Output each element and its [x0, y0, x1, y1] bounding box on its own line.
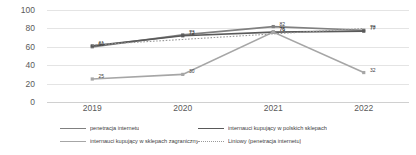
- x-axis-tick-label: 2019: [83, 104, 102, 113]
- data-point-label: 25: [98, 74, 104, 79]
- data-point-label: 72: [189, 30, 195, 35]
- data-point-marker: [272, 30, 275, 33]
- legend-item[interactable]: penetracja internetu: [60, 126, 198, 132]
- legend-item-label: penetracja internetu: [90, 126, 139, 132]
- x-axis: 2019202020212022: [47, 104, 409, 118]
- y-axis: 020406080100: [0, 10, 40, 102]
- legend-swatch-icon: [60, 141, 86, 142]
- data-point-marker: [362, 30, 365, 33]
- legend-item[interactable]: Liniowy (penetracja internetu): [198, 139, 360, 145]
- series-line: [92, 27, 364, 47]
- legend-swatch-icon: [198, 141, 224, 142]
- legend-item[interactable]: internauci kupujący w polskich sklepach: [198, 126, 360, 132]
- y-axis-tick-label: 40: [1, 61, 35, 70]
- series-line: [92, 31, 364, 46]
- legend-item-label: Liniowy (penetracja internetu): [228, 139, 301, 145]
- data-point-label: 30: [189, 69, 195, 74]
- line-chart: 020406080100 607382786172767725307632 20…: [0, 0, 416, 155]
- data-point-marker: [362, 71, 365, 74]
- y-axis-tick-label: 80: [1, 24, 35, 33]
- x-axis-tick-label: 2022: [354, 104, 373, 113]
- data-point-label: 76: [279, 27, 285, 32]
- data-point-marker: [181, 34, 184, 37]
- data-point-label: 32: [370, 67, 376, 72]
- y-axis-tick-label: 100: [1, 6, 35, 15]
- legend-item[interactable]: internauci kupujący w sklepach zagranicz…: [60, 139, 198, 145]
- x-axis-tick-label: 2020: [173, 104, 192, 113]
- plot-area: 607382786172767725307632: [47, 10, 409, 102]
- data-point-marker: [272, 25, 275, 28]
- data-point-marker: [181, 73, 184, 76]
- chart-legend: penetracja internetuinternauci kupujący …: [60, 122, 360, 148]
- legend-swatch-icon: [60, 128, 86, 129]
- x-axis-tick-label: 2021: [264, 104, 283, 113]
- data-point-label: 77: [370, 26, 376, 31]
- legend-swatch-icon: [198, 128, 224, 129]
- y-axis-tick-label: 60: [1, 43, 35, 52]
- y-axis-tick-label: 20: [1, 79, 35, 88]
- legend-item-label: internauci kupujący w sklepach zagranicz…: [90, 139, 198, 145]
- data-point-marker: [91, 77, 94, 80]
- y-axis-tick-label: 0: [1, 98, 35, 107]
- data-point-label: 61: [98, 40, 104, 45]
- series-line: [92, 32, 364, 79]
- legend-item-label: internauci kupujący w polskich sklepach: [228, 126, 327, 132]
- series-layer: [47, 10, 409, 102]
